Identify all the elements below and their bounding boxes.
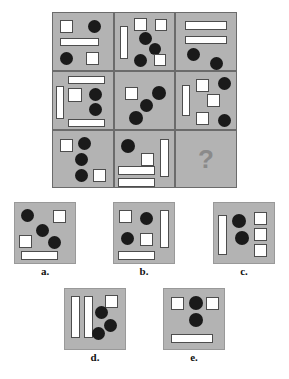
opta-horizontal-bar-shape-5: [21, 251, 58, 260]
cell5-circle-shape-2: [218, 77, 231, 90]
answer-option-e-panel[interactable]: [163, 288, 225, 350]
optd-square-shape-2: [105, 295, 118, 308]
cell4-circle-shape-3: [129, 111, 143, 125]
answer-option-e-label: e.: [163, 351, 225, 363]
cell0-horizontal-bar-shape-2: [60, 38, 99, 46]
optb-square-shape-0: [119, 210, 132, 223]
optb-circle-shape-1: [140, 212, 153, 225]
optb-circle-shape-3: [121, 232, 134, 245]
optc-circle-shape-4: [235, 231, 249, 245]
cell6-circle-shape-1: [78, 137, 91, 150]
optc-square-shape-3: [254, 228, 267, 241]
opta-square-shape-1: [53, 210, 66, 223]
answer-option-c[interactable]: [213, 202, 275, 264]
matrix-cell-r1-c0: [52, 71, 114, 130]
cell5-square-shape-3: [207, 94, 220, 107]
cell6-circle-shape-2: [75, 153, 88, 166]
cell3-vertical-bar-shape-1: [56, 86, 64, 119]
cell5-vertical-bar-shape-0: [182, 85, 190, 116]
matrix-cell-r0-c2: [175, 12, 237, 71]
question-mark-icon: ?: [176, 146, 236, 172]
answer-option-a-panel[interactable]: [14, 202, 76, 264]
answer-option-d[interactable]: [64, 288, 126, 350]
answer-option-c-label: c.: [213, 265, 275, 277]
answer-option-b-label: b.: [113, 265, 175, 277]
optd-vertical-bar-shape-0: [71, 296, 80, 338]
matrix-cell-r1-c2: [175, 71, 237, 130]
cell6-square-shape-4: [93, 169, 106, 182]
matrix-puzzle-grid: ?: [52, 12, 237, 188]
cell4-square-shape-0: [125, 87, 138, 100]
matrix-cell-r1-c1: [114, 71, 175, 130]
matrix-cell-r0-c1: [114, 12, 175, 71]
cell1-circle-shape-5: [134, 54, 147, 67]
cell2-horizontal-bar-shape-0: [185, 21, 227, 30]
optc-circle-shape-1: [232, 214, 246, 228]
optb-horizontal-bar-shape-5: [118, 251, 155, 260]
cell7-square-shape-1: [141, 153, 154, 166]
cell1-square-shape-2: [155, 19, 167, 31]
opta-square-shape-3: [19, 235, 32, 248]
answer-option-a[interactable]: [14, 202, 76, 264]
cell3-square-shape-2: [68, 88, 82, 102]
cell1-square-shape-1: [134, 18, 147, 31]
cell3-horizontal-bar-shape-5: [68, 119, 105, 127]
matrix-cell-missing: ?: [175, 130, 237, 188]
cell1-circle-shape-3: [139, 32, 152, 45]
cell2-horizontal-bar-shape-1: [185, 36, 227, 44]
answer-option-d-panel[interactable]: [64, 288, 126, 350]
cell5-square-shape-4: [196, 112, 209, 125]
optd-circle-shape-5: [92, 327, 105, 340]
optb-vertical-bar-shape-2: [160, 210, 169, 248]
opta-circle-shape-4: [48, 236, 61, 249]
opta-circle-shape-2: [36, 224, 49, 237]
answer-option-b[interactable]: [113, 202, 175, 264]
answer-option-c-panel[interactable]: [213, 202, 275, 264]
cell0-circle-shape-3: [60, 52, 73, 65]
cell1-vertical-bar-shape-0: [120, 26, 128, 59]
cell4-circle-shape-1: [152, 86, 166, 100]
cell4-circle-shape-2: [140, 99, 153, 112]
optd-circle-shape-4: [104, 319, 117, 332]
opte-square-shape-0: [171, 297, 184, 310]
cell6-circle-shape-3: [75, 169, 88, 182]
cell7-vertical-bar-shape-2: [160, 139, 169, 177]
matrix-cell-r0-c0: [52, 12, 114, 71]
answer-option-a-label: a.: [14, 265, 76, 277]
cell7-circle-shape-0: [121, 139, 135, 153]
cell0-square-shape-0: [60, 20, 73, 33]
cell3-circle-shape-4: [89, 103, 102, 116]
cell3-circle-shape-3: [89, 88, 102, 101]
cell1-square-shape-6: [154, 54, 166, 66]
cell5-circle-shape-5: [218, 114, 231, 127]
optd-circle-shape-3: [95, 306, 108, 319]
matrix-cell-r2-c0: [52, 130, 114, 188]
opta-circle-shape-0: [21, 209, 34, 222]
cell0-square-shape-4: [86, 52, 99, 65]
answer-option-e[interactable]: [163, 288, 225, 350]
cell2-circle-shape-2: [187, 48, 200, 61]
answer-option-b-panel[interactable]: [113, 202, 175, 264]
cell5-square-shape-1: [196, 79, 209, 92]
cell3-horizontal-bar-shape-0: [68, 76, 105, 84]
answer-option-d-label: d.: [64, 351, 126, 363]
opte-horizontal-bar-shape-4: [171, 334, 213, 343]
optc-square-shape-5: [254, 244, 267, 257]
cell0-circle-shape-1: [88, 20, 101, 33]
cell7-horizontal-bar-shape-3: [118, 166, 155, 175]
cell6-square-shape-0: [60, 139, 73, 152]
matrix-cell-r2-c1: [114, 130, 175, 188]
cell7-horizontal-bar-shape-4: [118, 178, 155, 187]
optc-square-shape-2: [254, 212, 267, 225]
opte-circle-shape-3: [189, 313, 203, 327]
optb-square-shape-4: [140, 233, 153, 246]
opte-square-shape-2: [206, 297, 219, 310]
cell2-circle-shape-3: [210, 57, 223, 70]
optc-vertical-bar-shape-0: [218, 215, 227, 255]
opte-circle-shape-1: [189, 296, 203, 310]
